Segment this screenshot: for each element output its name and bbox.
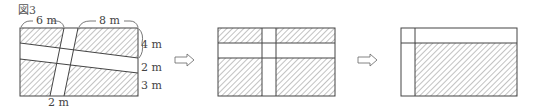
arrow-right-icon (175, 54, 194, 66)
figure-3-roads-moved-to-edge (401, 28, 517, 96)
figure-title: 図3 (18, 4, 36, 17)
arrow-right-icon (358, 54, 377, 66)
dimension-2m-right: 2 m (141, 61, 162, 74)
dimension-6m: 6 m (36, 14, 57, 27)
figure-1-field-with-slanted-roads: 6 m 8 m 4 m 2 m 3 m 2 m (20, 14, 162, 109)
dimension-4m: 4 m (141, 38, 162, 51)
dimension-3m: 3 m (141, 79, 162, 92)
dimension-2m-bottom: 2 m (48, 96, 69, 109)
figure-2-straightened-roads (218, 28, 335, 96)
dimension-8m: 8 m (99, 14, 120, 27)
figure-3-diagram: 図3 6 m 8 m 4 m 2 m 3 m 2 m (0, 0, 535, 110)
